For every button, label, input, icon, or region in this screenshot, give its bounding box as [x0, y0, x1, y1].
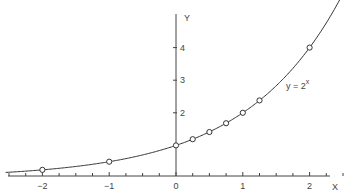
function-label: y = 2x — [286, 78, 310, 91]
x-axis-label: X — [332, 182, 338, 192]
data-point — [257, 98, 262, 103]
axes: −2−1012234 — [8, 14, 343, 191]
data-point — [190, 137, 195, 142]
x-tick-label: −2 — [37, 181, 47, 191]
data-point — [40, 167, 45, 172]
data-point — [307, 45, 312, 50]
data-point — [173, 143, 178, 148]
x-tick-label: 2 — [307, 181, 312, 191]
y-tick-label: 3 — [180, 75, 185, 85]
x-tick-label: −1 — [104, 181, 114, 191]
data-point — [107, 159, 112, 164]
data-point — [207, 129, 212, 134]
x-tick-label: 1 — [240, 181, 245, 191]
x-tick-label: 0 — [173, 181, 178, 191]
y-tick-label: 4 — [180, 43, 185, 53]
exponential-chart: −2−1012234 X Y y = 2x — [0, 0, 348, 196]
y-tick-label: 2 — [180, 108, 185, 118]
y-axis-label: Y — [184, 13, 190, 23]
data-point — [224, 121, 229, 126]
data-point — [240, 110, 245, 115]
